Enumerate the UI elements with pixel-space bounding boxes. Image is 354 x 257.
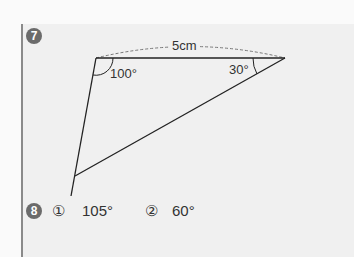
angle-30-label: 30°: [229, 62, 249, 77]
angle-100-label: 100°: [110, 66, 137, 81]
side-length-label: 5cm: [170, 38, 199, 53]
answer-1-marker: ①: [52, 202, 65, 220]
problem-8-badge: 8: [26, 203, 42, 219]
answer-2-marker: ②: [145, 202, 158, 220]
answer-2-value: 60°: [172, 202, 195, 219]
answer-1-value: 105°: [82, 202, 113, 219]
